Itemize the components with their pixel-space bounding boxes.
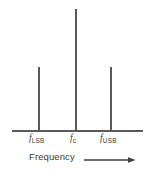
tick-subscript-lsb: LSB	[32, 137, 45, 144]
axis-caption-frequency: Frequency	[29, 151, 75, 163]
spectral-line-usb	[110, 67, 112, 131]
spectral-line-carrier	[75, 9, 77, 131]
frequency-axis-baseline	[12, 130, 143, 132]
spectral-line-lsb	[38, 67, 40, 131]
tick-label-lsb: fLSB	[29, 133, 45, 144]
spectrum-figure: fLSB fc fUSB Frequency	[0, 0, 153, 172]
tick-subscript-carrier: c	[73, 137, 76, 144]
plot-area: fLSB fc fUSB Frequency	[0, 0, 153, 172]
tick-label-usb: fUSB	[100, 133, 117, 144]
tick-subscript-usb: USB	[103, 137, 117, 144]
right-arrow-icon	[84, 156, 136, 164]
tick-label-carrier: fc	[70, 133, 76, 144]
